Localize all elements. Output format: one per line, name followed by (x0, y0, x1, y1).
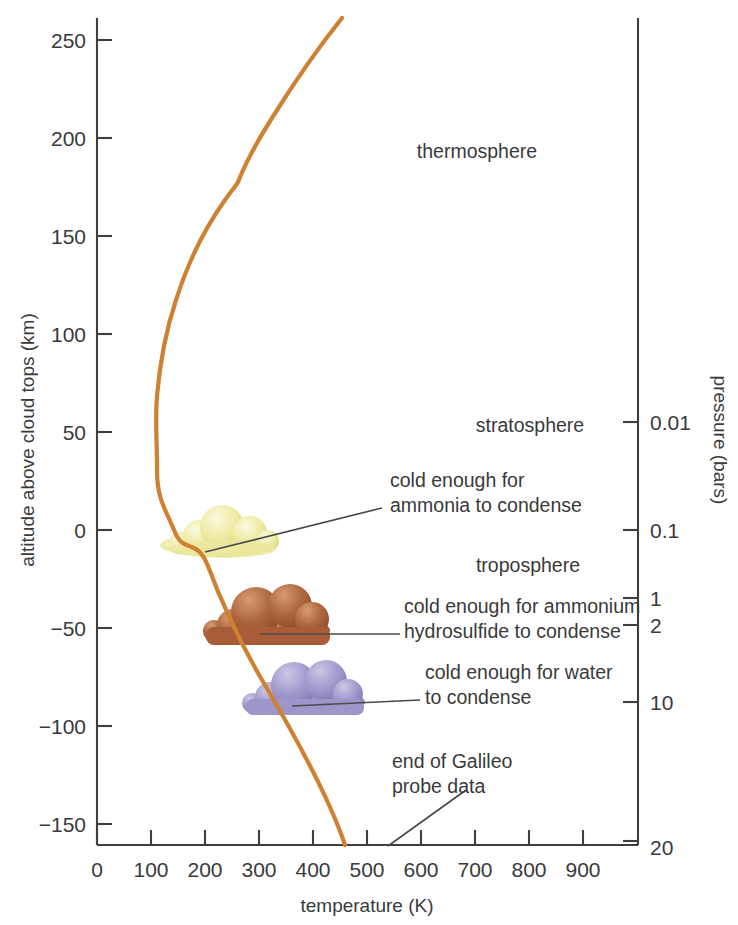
ytick-50: 50 (63, 421, 86, 444)
xtick-800: 800 (511, 858, 546, 881)
ptick-20: 20 (650, 836, 673, 859)
ammonia-annotation-line2: ammonia to condense (390, 494, 582, 516)
xtick-400: 400 (295, 858, 330, 881)
ytick-250: 250 (51, 29, 86, 52)
pressure-axis-ticks (623, 422, 638, 841)
ytick-150: 150 (51, 225, 86, 248)
water-cloud (242, 660, 365, 715)
ytick-200: 200 (51, 127, 86, 150)
chart-svg: 250 200 150 100 50 0 −50 −100 −150 0 100… (0, 0, 738, 925)
y2-axis-title: pressure (bars) (710, 376, 731, 505)
galileo-annotation-line2: probe data (392, 775, 485, 797)
galileo-annotation-line1: end of Galileo (392, 750, 512, 772)
xtick-300: 300 (241, 858, 276, 881)
water-annotation-line1: cold enough for water (425, 661, 613, 683)
ammonium-hydrosulfide-cloud (203, 584, 330, 645)
water-annotation: cold enough for water to condense (425, 661, 613, 708)
ptick-0-1: 0.1 (650, 519, 679, 542)
xtick-100: 100 (133, 858, 168, 881)
temperature-profile-curve (156, 18, 345, 845)
xtick-700: 700 (457, 858, 492, 881)
pressure-tick-labels: 0.01 0.1 1 2 10 20 (650, 411, 691, 859)
ammonia-cloud (160, 505, 279, 558)
ptick-1: 1 (650, 587, 662, 610)
ptick-10: 10 (650, 691, 673, 714)
ytick-m150: −150 (39, 813, 86, 836)
troposphere-label: troposphere (476, 554, 580, 576)
y-axis-title: altitude above cloud tops (km) (17, 313, 38, 566)
galileo-leader-line (388, 790, 466, 846)
temperature-tick-labels: 0 100 200 300 400 500 600 700 800 900 (91, 858, 600, 881)
ammonium-hydrosulfide-annotation: cold enough for ammonium hydrosulfide to… (404, 595, 640, 642)
xtick-600: 600 (403, 858, 438, 881)
altitude-axis-ticks (97, 40, 112, 824)
xtick-900: 900 (565, 858, 600, 881)
ytick-m100: −100 (39, 715, 86, 738)
ammonia-annotation-line1: cold enough for (390, 469, 525, 491)
ytick-m50: −50 (50, 617, 86, 640)
ytick-100: 100 (51, 323, 86, 346)
thermosphere-label: thermosphere (417, 140, 537, 162)
galileo-annotation: end of Galileo probe data (392, 750, 512, 797)
xtick-200: 200 (187, 858, 222, 881)
x-axis-title: temperature (K) (300, 895, 433, 916)
nh4sh-annotation-line2: hydrosulfide to condense (404, 620, 621, 642)
temperature-pressure-profile-chart: 250 200 150 100 50 0 −50 −100 −150 0 100… (0, 0, 738, 925)
xtick-500: 500 (349, 858, 384, 881)
ytick-0: 0 (74, 519, 86, 542)
nh4sh-annotation-line1: cold enough for ammonium (404, 595, 640, 617)
stratosphere-label: stratosphere (476, 414, 584, 436)
water-annotation-line2: to condense (425, 686, 531, 708)
ammonia-annotation: cold enough for ammonia to condense (390, 469, 582, 516)
altitude-tick-labels: 250 200 150 100 50 0 −50 −100 −150 (39, 29, 86, 836)
ptick-2: 2 (650, 614, 662, 637)
xtick-0: 0 (91, 858, 103, 881)
ptick-0-01: 0.01 (650, 411, 691, 434)
